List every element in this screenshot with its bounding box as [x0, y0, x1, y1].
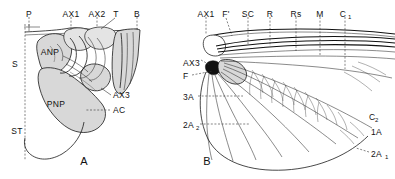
label-b-sc: SC [242, 9, 254, 19]
label-b-r: R [267, 9, 273, 19]
label-b-m: M [316, 9, 323, 19]
label-b-2a2: 2A [183, 120, 194, 130]
panel-letter-b: B [203, 155, 210, 167]
label-b-ax1: AX1 [198, 9, 215, 19]
label-st: ST [11, 126, 22, 136]
label-p: P [26, 9, 32, 19]
label-ac: AC [113, 105, 125, 115]
label-b-1a: 1A [371, 127, 382, 137]
label-b: B [134, 9, 140, 19]
label-anp: ANP [41, 47, 59, 57]
label-b-rs: Rs [291, 9, 302, 19]
label-b-3a: 3A [183, 92, 194, 102]
label-b-ax3: AX3 [183, 58, 200, 68]
label-s: S [12, 59, 18, 69]
panel-letter-a: A [80, 155, 88, 167]
label-ax2: AX2 [89, 9, 106, 19]
label-b-2a1: 2A [371, 149, 382, 159]
label-b-f: F [183, 71, 189, 81]
label-t: T [113, 9, 119, 19]
label-ax3-a: AX3 [113, 90, 130, 100]
wing-base-knob [203, 35, 225, 56]
figure-canvas: P AX1 AX2 T B S ST ANP PNP AX3 AC A [0, 0, 395, 179]
label-b-c1: C [340, 9, 346, 19]
wing-diagram-svg: P AX1 AX2 T B S ST ANP PNP AX3 AC A [0, 0, 395, 179]
label-ax1: AX1 [63, 9, 80, 19]
label-b-fprime: F' [222, 9, 229, 19]
label-pnp: PNP [47, 99, 65, 109]
